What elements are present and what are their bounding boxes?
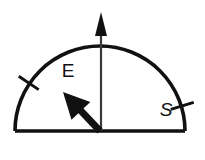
figure-root: E S	[0, 0, 205, 160]
semicircle-angle-diagram: E S	[0, 0, 205, 160]
label-e: E	[62, 60, 75, 81]
label-s: S	[160, 99, 173, 120]
